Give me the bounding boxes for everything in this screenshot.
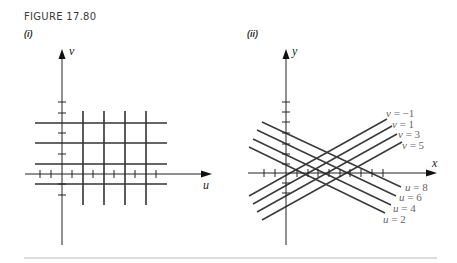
panel-i-uv-grid: vu	[25, 44, 212, 245]
x-axis-arrow-icon	[426, 170, 437, 177]
y-axis-arrow-icon	[283, 49, 290, 59]
u-axis-arrow-icon	[201, 171, 212, 178]
v-axis-arrow-icon	[59, 49, 66, 59]
u-axis-label: u	[203, 178, 209, 192]
panel-ii-xy-image: yxu = 8u = 6u = 4u = 2v = −1v = 1v = 3v …	[248, 44, 438, 245]
u-line-label: u = 2	[383, 213, 406, 225]
y-axis-label: y	[291, 44, 298, 58]
x-axis-label: x	[431, 156, 438, 170]
figure-canvas: vu yxu = 8u = 6u = 4u = 2v = −1v = 1v = …	[0, 0, 457, 263]
v-line-label: v = 5	[402, 139, 425, 151]
u-const-line	[249, 147, 385, 213]
v-axis-label: v	[69, 44, 75, 58]
